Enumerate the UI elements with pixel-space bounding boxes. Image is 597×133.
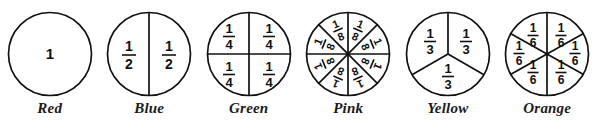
slice-label: 1 8 bbox=[311, 35, 338, 54]
fraction-circle-yellow: 1 3 1 3 1 3 Yellow bbox=[398, 0, 498, 133]
denominator: 3 bbox=[444, 77, 451, 92]
numerator: 1 bbox=[462, 26, 469, 41]
numerator: 1 bbox=[530, 21, 537, 35]
circle-graphic-blue: 1 2 1 2 bbox=[106, 11, 192, 97]
circle-graphic-red: 1 bbox=[7, 11, 93, 97]
denominator: 8 bbox=[350, 30, 360, 43]
whole-circle-svg: 1 bbox=[7, 11, 93, 97]
sixths-circle-svg: 1 6 1 6 1 6 1 bbox=[504, 11, 590, 97]
divider-radius-lower-right bbox=[448, 54, 484, 75]
fraction-circle-red: 1 Red bbox=[0, 0, 100, 133]
circle-color-label: Red bbox=[37, 101, 62, 116]
divider-radius-lower-left bbox=[412, 54, 448, 75]
fraction-circle-blue: 1 2 1 2 Blue bbox=[100, 0, 200, 133]
slice-label: 1 2 bbox=[122, 38, 136, 72]
slice-label: 1 4 bbox=[263, 21, 275, 52]
denominator: 6 bbox=[530, 73, 537, 87]
circle-graphic-yellow: 1 3 1 3 1 3 bbox=[405, 11, 491, 97]
denominator: 6 bbox=[558, 36, 565, 50]
slice-label: 1 8 bbox=[358, 54, 385, 73]
slice-label: 1 4 bbox=[263, 59, 275, 90]
slice-label: 1 6 bbox=[528, 58, 539, 87]
fraction-circle-orange: 1 6 1 6 1 6 1 bbox=[498, 0, 597, 133]
numerator: 1 bbox=[265, 21, 272, 36]
numerator: 1 bbox=[125, 38, 133, 54]
denominator: 8 bbox=[336, 30, 346, 43]
denominator: 3 bbox=[462, 42, 469, 57]
denominator: 4 bbox=[225, 75, 233, 90]
denominator: 4 bbox=[265, 37, 273, 52]
numerator: 1 bbox=[225, 21, 232, 36]
slice-label: 1 3 bbox=[460, 26, 472, 57]
fraction-circle-pink: 1 8 1 8 1 8 1 bbox=[299, 0, 399, 133]
denominator: 2 bbox=[165, 56, 173, 72]
circle-graphic-orange: 1 6 1 6 1 6 1 bbox=[504, 11, 590, 97]
slice-label: 1 4 bbox=[223, 21, 235, 52]
thirds-circle-svg: 1 3 1 3 1 3 bbox=[405, 11, 491, 97]
numerator: 1 bbox=[165, 38, 173, 54]
numerator: 1 bbox=[444, 61, 451, 76]
slice-label: 1 6 bbox=[556, 58, 567, 87]
fraction-circles-diagram: 1 Red 1 2 1 2 bbox=[0, 0, 597, 133]
denominator: 6 bbox=[516, 54, 523, 68]
numerator: 1 bbox=[265, 59, 272, 74]
denominator: 8 bbox=[359, 56, 372, 66]
halves-circle-svg: 1 2 1 2 bbox=[106, 11, 192, 97]
slice-label: 1 8 bbox=[329, 64, 348, 91]
slice-label: 1 8 bbox=[358, 35, 385, 54]
denominator: 6 bbox=[558, 73, 565, 87]
fraction-circle-row: 1 Red 1 2 1 2 bbox=[0, 0, 597, 133]
circle-color-label: Blue bbox=[134, 101, 164, 116]
slice-label: 1 2 bbox=[162, 38, 176, 72]
whole-label: 1 bbox=[46, 45, 54, 62]
denominator: 8 bbox=[324, 56, 337, 66]
circle-color-label: Orange bbox=[523, 101, 571, 116]
circle-color-label: Pink bbox=[333, 101, 363, 116]
denominator: 8 bbox=[336, 65, 346, 78]
denominator: 6 bbox=[572, 54, 579, 68]
numerator: 1 bbox=[558, 58, 565, 72]
slice-label: 1 8 bbox=[349, 64, 368, 91]
numerator: 1 bbox=[426, 26, 433, 41]
eighths-circle-svg: 1 8 1 8 1 8 1 bbox=[305, 11, 391, 97]
denominator: 6 bbox=[530, 36, 537, 50]
slice-label: 1 8 bbox=[329, 17, 348, 44]
fraction-circle-green: 1 4 1 4 1 4 1 bbox=[199, 0, 299, 133]
denominator: 8 bbox=[324, 42, 337, 52]
numerator: 1 bbox=[225, 59, 232, 74]
denominator: 4 bbox=[225, 37, 233, 52]
quarters-circle-svg: 1 4 1 4 1 4 1 bbox=[206, 11, 292, 97]
numerator: 1 bbox=[530, 58, 537, 72]
slice-label: 1 4 bbox=[223, 59, 235, 90]
denominator: 8 bbox=[359, 42, 372, 52]
slice-label: 1 6 bbox=[556, 21, 567, 50]
circle-color-label: Yellow bbox=[427, 101, 468, 116]
denominator: 3 bbox=[426, 42, 433, 57]
slice-label: 1 3 bbox=[424, 26, 436, 57]
numerator: 1 bbox=[516, 39, 523, 53]
circle-graphic-pink: 1 8 1 8 1 8 1 bbox=[305, 11, 391, 97]
circle-graphic-green: 1 4 1 4 1 4 1 bbox=[206, 11, 292, 97]
slice-label: 1 6 bbox=[528, 21, 539, 50]
slice-label: 1 6 bbox=[514, 39, 525, 68]
slice-label: 1 3 bbox=[442, 61, 454, 92]
denominator: 8 bbox=[350, 65, 360, 78]
numerator: 1 bbox=[572, 39, 579, 53]
denominator: 4 bbox=[265, 75, 273, 90]
slice-label: 1 8 bbox=[311, 54, 338, 73]
slice-label: 1 6 bbox=[570, 39, 581, 68]
numerator: 1 bbox=[558, 21, 565, 35]
circle-color-label: Green bbox=[229, 101, 268, 116]
denominator: 2 bbox=[125, 56, 133, 72]
slice-label: 1 8 bbox=[349, 17, 368, 44]
